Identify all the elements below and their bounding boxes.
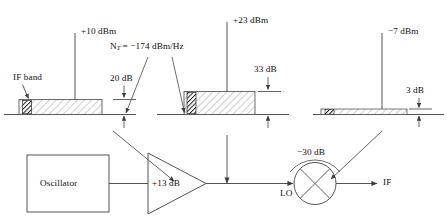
noise-symbol-subscript: T — [117, 44, 121, 51]
label-plus-23-dbm: +23 dBm — [233, 15, 268, 25]
port-label-if: IF — [383, 177, 391, 187]
block-label-oscillator: Oscillator — [40, 178, 77, 188]
label-noise-temperature: NT= −174 dBm/Hz — [110, 41, 184, 51]
label-if-band: IF band — [13, 72, 42, 82]
diagram-canvas: +10 dBm +23 dBm −7 dBm IF band 20 dB 33 … — [0, 0, 448, 222]
block-diagram-group — [27, 131, 382, 214]
noise-value: = −174 dBm/Hz — [123, 41, 184, 51]
spectrum-2-group — [126, 22, 289, 128]
diagram-vector-layer — [0, 0, 448, 222]
label-minus-7-dbm: −7 dBm — [388, 26, 419, 36]
block-label-amplifier-gain: +13 dB — [152, 178, 180, 188]
label-20-db: 20 dB — [110, 73, 133, 83]
label-3-db: 3 dB — [406, 85, 424, 95]
port-label-lo: LO — [280, 188, 292, 198]
label-plus-10-dbm: +10 dBm — [81, 26, 116, 36]
block-label-mixer-loss: −30 dB — [297, 147, 325, 157]
noise-symbol: N — [110, 41, 117, 51]
spectrum-3-group — [313, 33, 444, 127]
label-33-db: 33 dB — [254, 64, 277, 74]
